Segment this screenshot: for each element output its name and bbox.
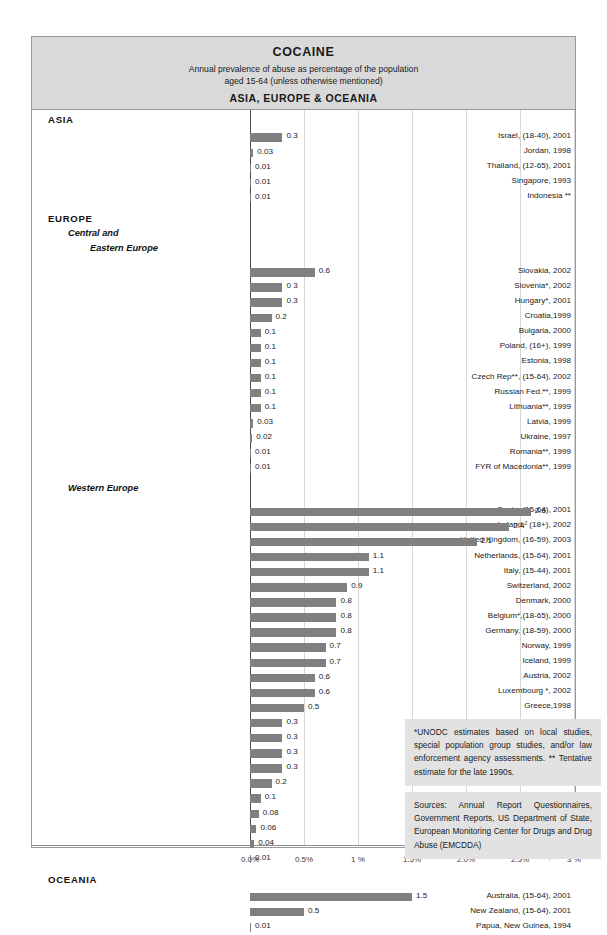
bar: [250, 164, 251, 172]
bar: [250, 749, 282, 757]
chart-bar-row: Papua, New Guinea, 19940.01: [32, 920, 575, 935]
bar: [250, 194, 251, 202]
bar-row-label: Singapore, 1993: [361, 176, 575, 185]
bar-row-label: Jordan, 1998: [361, 146, 575, 155]
bar: [250, 133, 282, 141]
bar-value-label: 0.01: [255, 177, 271, 186]
chart-bar-row: Greece,19980.5: [32, 700, 575, 715]
bar-value-label: 0.1: [265, 372, 276, 381]
bar-value-label: 0.7: [330, 657, 341, 666]
bar: [250, 598, 336, 606]
chart-bar-row: Netherlands, (15-64), 20011.1: [32, 550, 575, 565]
bar-row-label: Estonia, 1998: [361, 356, 575, 365]
bar-row-label: Poland, (16+), 1999: [361, 341, 575, 350]
bar-row-label: Lithuania**, 1999: [361, 402, 575, 411]
spacer: [32, 258, 575, 265]
bar: [250, 179, 251, 187]
bar: [250, 268, 315, 276]
chart-bar-row: Estonia, 19980.1: [32, 355, 575, 370]
bar: [250, 298, 282, 306]
chart-bar-row: Switzerland, 20020.9: [32, 580, 575, 595]
section-label: EUROPE: [48, 213, 93, 224]
subsection-label: Eastern Europe: [90, 243, 158, 253]
bar-value-label: 0.06: [260, 823, 276, 832]
bar: [250, 508, 531, 516]
bar: [250, 674, 315, 682]
bar: [250, 404, 261, 412]
bar-value-label: 0.03: [257, 417, 273, 426]
bar: [250, 840, 254, 848]
chart-bar-row: Norway, 19990.7: [32, 640, 575, 655]
chart-frame: COCAINE Annual prevalence of abuse as pe…: [31, 36, 576, 848]
bar-row-label: Netherlands, (15-64), 2001: [361, 551, 575, 560]
section-header-oceania: OCEANIA: [32, 874, 575, 889]
bar: [250, 719, 282, 727]
chart-bar-row: Slovakia, 20020.6: [32, 265, 575, 280]
bar: [250, 825, 256, 833]
bar-value-label: 0.1: [265, 387, 276, 396]
bar-row-label: Hungary*, 2001: [361, 296, 575, 305]
bar-value-label: 0.5: [308, 906, 319, 915]
bar: [250, 374, 261, 382]
bar-row-label: Belgium*,(18-65), 2000: [361, 611, 575, 620]
bar-value-label: 0.04: [258, 838, 274, 847]
bar-row-label: Slovakia, 2002: [361, 266, 575, 275]
chart-bar-row: Croatia,19990.2: [32, 310, 575, 325]
chart-bar-row: Denmark, 20000.8: [32, 595, 575, 610]
bar: [250, 314, 272, 322]
chart-bar-row: Spain, (15-64), 20012.6: [32, 504, 575, 519]
section-label: OCEANIA: [48, 874, 97, 885]
bar-value-label: 0.01: [255, 192, 271, 201]
chart-bar-row: FYR of Macedonia**, 19990.01: [32, 461, 575, 476]
chart-bar-row: New Zealand, (15-64), 20010.5: [32, 905, 575, 920]
chart-bar-row: Indonesia **0.01: [32, 190, 575, 205]
bar-value-label: 0.3: [286, 296, 297, 305]
bar: [250, 659, 326, 667]
bar: [250, 794, 261, 802]
bar-value-label: 0.1: [265, 402, 276, 411]
bar-value-label: 2.4: [513, 521, 524, 530]
chart-bar-row: Latvia, 19990.03: [32, 416, 575, 431]
bar-value-label: 0.8: [340, 596, 351, 605]
bar-value-label: 0.1: [265, 357, 276, 366]
bar-value-label: 0.1: [265, 792, 276, 801]
bar: [250, 389, 261, 397]
chart-bar-row: Czech Rep**, (15-64), 20020.1: [32, 371, 575, 386]
chart-bar-row: Iceland, 19990.7: [32, 655, 575, 670]
chart-bar-row: Italy, (15-44), 20011.1: [32, 565, 575, 580]
bar-row-label: Indonesia **: [361, 191, 575, 200]
spacer: [32, 476, 575, 483]
chart-bar-row: Belgium*,(18-65), 20000.8: [32, 610, 575, 625]
bar: [250, 643, 326, 651]
bar-value-label: 0.6: [319, 266, 330, 275]
bar-row-label: Iceland, 1999: [361, 656, 575, 665]
chart-bar-row: Russian Fed.**, 19990.1: [32, 386, 575, 401]
bar-row-label: FYR of Macedonia**, 1999: [361, 462, 575, 471]
notes-sources-box: Sources: Annual Report Questionnaires, G…: [405, 792, 601, 859]
section-label: ASIA: [48, 114, 74, 125]
bar: [250, 764, 282, 772]
chart-bar-row: Austria, 20020.6: [32, 670, 575, 685]
bar-value-label: 0.3: [286, 732, 297, 741]
bar: [250, 419, 253, 427]
bar-value-label: 0.5: [308, 702, 319, 711]
bar: [250, 344, 261, 352]
bar: [250, 628, 336, 636]
bar-value-label: 0 3: [286, 281, 297, 290]
subtitle-line-1: Annual prevalence of abuse as percentage…: [189, 64, 418, 74]
chart-bar-row: Israel, (18-40), 20010.3: [32, 130, 575, 145]
bar-row-label: Slovenia*, 2002: [361, 281, 575, 290]
bar-value-label: 0.1: [265, 342, 276, 351]
bar: [250, 779, 272, 787]
subsection-header: Eastern Europe: [32, 243, 575, 258]
bar: [250, 583, 347, 591]
bar-row-label: Bulgaria, 2000: [361, 326, 575, 335]
bar-value-label: 0.08: [263, 808, 279, 817]
chart-bar-row: Hungary*, 20010.3: [32, 295, 575, 310]
bar-value-label: 0.02: [256, 432, 272, 441]
chart-bar-row: Romania**, 19990.01: [32, 446, 575, 461]
bar: [250, 568, 369, 576]
chart-subtitle: Annual prevalence of abuse as percentage…: [32, 64, 575, 87]
bar: [250, 855, 251, 863]
